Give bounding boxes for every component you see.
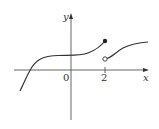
y-axis-arrow-icon — [69, 13, 73, 19]
x-axis-label: x — [143, 72, 149, 83]
graph-canvas: y 0 2 x — [0, 0, 159, 129]
x-tick-2-label: 2 — [101, 72, 107, 83]
origin-label: 0 — [63, 72, 69, 83]
closed-dot-icon — [103, 39, 107, 43]
open-dot-icon — [103, 57, 107, 61]
curve-left-piece — [20, 41, 105, 91]
curve-right-piece — [107, 42, 148, 59]
y-axis-label: y — [62, 11, 69, 22]
